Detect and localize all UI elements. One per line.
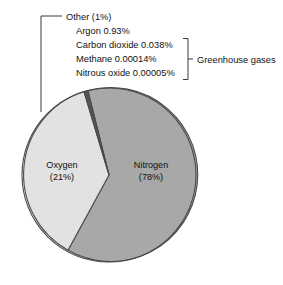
nitrogen-label-name: Nitrogen [134,160,168,170]
chart-canvas: Oxygen (21%) Nitrogen (78%) Other (1%) A… [0,0,283,285]
nitrogen-label-percent: (78%) [139,172,163,182]
greenhouse-gases-label: Greenhouse gases [197,55,276,65]
breakdown-item-methane: Methane 0.00014% [76,54,157,64]
other-breakdown-list: Argon 0.93% Carbon dioxide 0.038% Methan… [76,26,175,78]
oxygen-label-percent: (21%) [50,172,74,182]
greenhouse-bracket [183,39,193,80]
breakdown-item-nitrous-oxide: Nitrous oxide 0.00005% [76,68,175,78]
other-leader-line [41,16,62,112]
oxygen-label-name: Oxygen [46,160,77,170]
breakdown-item-carbon-dioxide: Carbon dioxide 0.038% [76,40,173,50]
pie-group [22,88,198,262]
atmosphere-pie-chart-figure: Oxygen (21%) Nitrogen (78%) Other (1%) A… [0,0,283,285]
breakdown-item-argon: Argon 0.93% [76,26,130,36]
other-callout-label: Other (1%) [66,12,111,22]
